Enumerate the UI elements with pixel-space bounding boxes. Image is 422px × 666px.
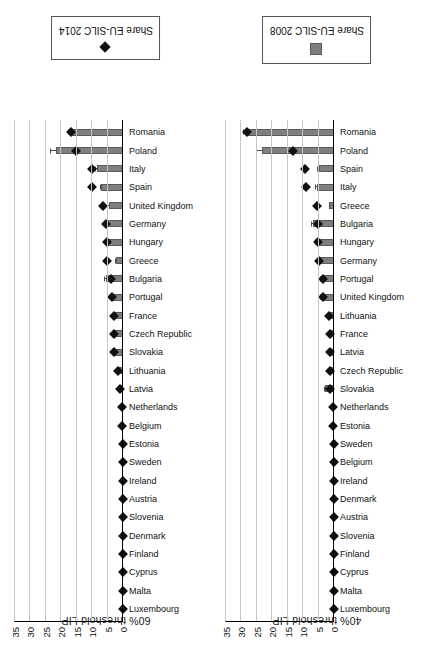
gridline [60, 120, 61, 621]
x-axis-category-label: Italy [340, 182, 357, 192]
error-bar [51, 150, 57, 151]
x-axis-category-label: Belgium [129, 421, 162, 431]
bar [71, 129, 123, 136]
bar [319, 165, 334, 172]
y-axis-tick-label: 0 [329, 623, 340, 632]
legend-label-2008: Share EU-SILC 2008 [270, 25, 364, 36]
x-axis-category-label: Hungary [340, 237, 374, 247]
x-axis-category-label: Belgium [340, 457, 373, 467]
error-bar [257, 150, 263, 151]
x-axis-category-label: Luxembourg [340, 604, 390, 614]
error-bar [116, 260, 117, 261]
gridline [318, 120, 319, 621]
bar [56, 147, 123, 154]
chart-panel-40: 40% threshold LIP LuxembourgMaltaCyprusF… [211, 0, 422, 666]
diamond-marker-icon [100, 41, 111, 52]
gridline [29, 120, 30, 621]
x-axis-category-label: Bulgaria [129, 274, 162, 284]
x-axis-category-label: Ireland [129, 476, 157, 486]
chart-panel-60: 60% threshold LIP LuxembourgMaltaCyprusF… [0, 0, 211, 666]
x-axis-category-label: Portugal [129, 292, 163, 302]
error-bar-cap [115, 258, 116, 263]
y-axis-tick-label: 15 [71, 623, 82, 638]
x-axis-category-label: Cyprus [340, 567, 369, 577]
x-axis-category-label: Netherlands [129, 402, 178, 412]
error-bar-cap [50, 148, 51, 153]
gridline [302, 120, 303, 621]
y-axis-tick-label: 10 [298, 623, 309, 638]
data-point-marker [115, 384, 125, 394]
y-axis-tick-label: 25 [40, 623, 51, 638]
x-axis-category-label: Slovenia [340, 531, 375, 541]
gridline [256, 120, 257, 621]
x-axis-category-label: Austria [129, 494, 157, 504]
x-axis-category-label: Greece [340, 201, 370, 211]
y-axis-tick-label: 25 [251, 623, 262, 638]
error-bar [330, 205, 331, 206]
gridline [91, 120, 92, 621]
y-axis-tick-label: 20 [267, 623, 278, 638]
gridline [271, 120, 272, 621]
x-axis-category-label: Lithuania [129, 366, 166, 376]
y-axis-tick-label: 35 [221, 623, 232, 638]
plot-area-60: LuxembourgMaltaCyprusFinlandDenmarkSlove… [14, 120, 123, 622]
y-axis-tick-label: 30 [236, 623, 247, 638]
x-axis-category-label: Spain [340, 164, 363, 174]
gridline [76, 120, 77, 621]
error-bar-cap [315, 185, 316, 190]
x-axis-category-label: Spain [129, 182, 152, 192]
error-bar [101, 186, 102, 187]
x-axis-category-label: Malta [129, 586, 151, 596]
y-axis-tick-label: 5 [102, 623, 113, 632]
legend-60: Share EU-SILC 2014 [51, 16, 161, 60]
y-axis-tick-label: 30 [25, 623, 36, 638]
x-axis-category-label: Romania [340, 127, 376, 137]
x-axis-category-label: Poland [129, 146, 157, 156]
y-axis-tick-label: 20 [56, 623, 67, 638]
x-axis-category-label: Germany [340, 256, 377, 266]
bar [248, 129, 334, 136]
x-axis-category-label: Portugal [340, 274, 374, 284]
bar [109, 202, 123, 209]
y-axis-tick-label: 15 [282, 623, 293, 638]
gridline [240, 120, 241, 621]
x-axis-category-label: Sweden [340, 439, 373, 449]
x-axis-line [333, 120, 334, 621]
x-axis-category-label: Bulgaria [340, 219, 373, 229]
error-bar-cap [104, 276, 105, 281]
x-axis-category-label: Slovakia [340, 384, 374, 394]
x-axis-category-label: Austria [340, 512, 368, 522]
x-axis-category-label: Estonia [340, 421, 370, 431]
bar [317, 184, 334, 191]
x-axis-category-label: Finland [129, 549, 159, 559]
gridline [45, 120, 46, 621]
x-axis-category-label: Slovenia [129, 512, 164, 522]
x-axis-category-label: Lithuania [340, 311, 377, 321]
x-axis-category-label: Malta [340, 586, 362, 596]
x-axis-category-label: Hungary [129, 237, 163, 247]
x-axis-category-label: Denmark [129, 531, 166, 541]
x-axis-category-label: Slovakia [129, 347, 163, 357]
bar [97, 165, 123, 172]
x-axis-category-label: Czech Republic [340, 366, 403, 376]
y-axis-tick-label: 10 [87, 623, 98, 638]
x-axis-category-label: Greece [129, 256, 159, 266]
x-axis-category-label: Luxembourg [129, 604, 179, 614]
x-axis-category-label: Denmark [340, 494, 377, 504]
x-axis-category-label: Poland [340, 146, 368, 156]
x-axis-category-label: Sweden [129, 457, 162, 467]
rotated-figure-wrapper: 60% threshold LIP LuxembourgMaltaCyprusF… [0, 0, 422, 666]
legend-40: Share EU-SILC 2008 [262, 16, 372, 64]
gridline [225, 120, 226, 621]
x-axis-category-label: Cyprus [129, 567, 158, 577]
x-axis-category-label: Latvia [129, 384, 153, 394]
y-axis-tick-label: 0 [118, 623, 129, 632]
gridline [14, 120, 15, 621]
legend-label-2014: Share EU-SILC 2014 [59, 25, 153, 36]
bar [101, 184, 123, 191]
y-axis-tick-label: 35 [10, 623, 21, 638]
x-axis-category-label: France [129, 311, 157, 321]
x-axis-line [122, 120, 123, 621]
x-axis-category-label: United Kingdom [129, 201, 193, 211]
x-axis-category-label: Netherlands [340, 402, 389, 412]
